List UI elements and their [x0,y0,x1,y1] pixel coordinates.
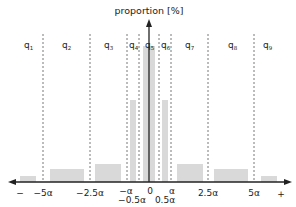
bar-q8 [214,169,248,182]
tick-labels: − −5α −2.5α −α −0.5α 0 0.5α α 2.5α 5α + [16,186,285,205]
tick-label-p1: α [169,186,175,196]
tick-label-p5: 5α [248,188,260,198]
bin-label-q9: q9 [263,40,273,51]
bin-labels: q1 q2 q3 q4 q5 q6 q7 q8 q9 [24,40,273,51]
bin-label-q3: q3 [104,40,114,51]
x-axis-left-arrow-icon [8,179,16,185]
bin-label-q4: q4 [129,40,139,51]
tick-label-p25: 2.5α [198,188,218,198]
bin-label-q1: q1 [24,40,33,51]
bar-q1 [20,176,36,182]
bar-q9 [261,176,277,182]
quantization-diagram: proportion [%] q1 q2 q3 q4 q5 q6 q7 q8 q… [0,0,296,207]
bin-label-q7: q7 [185,40,195,51]
tick-label-m5: −5α [33,188,52,198]
bin-label-q2: q2 [62,40,71,51]
bin-label-q6: q6 [161,40,171,51]
y-axis-arrow-icon [146,19,152,27]
bar-q7 [177,164,203,182]
bar-q4 [130,100,136,182]
tick-label-p05: 0.5α [155,195,175,205]
axis-plus-label: + [277,189,285,199]
bar-q3 [95,164,121,182]
tick-label-m05: −0.5α [118,195,146,205]
bar-q2 [50,169,84,182]
tick-label-zero: 0 [147,186,153,196]
bar-q6 [162,100,168,182]
tick-label-m25: −2.5α [76,188,104,198]
y-axis-label: proportion [%] [115,5,184,16]
bin-label-q5: q5 [145,40,155,51]
axis-minus-label: − [16,188,24,198]
bin-label-q8: q8 [228,40,238,51]
x-axis-right-arrow-icon [284,179,292,185]
